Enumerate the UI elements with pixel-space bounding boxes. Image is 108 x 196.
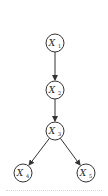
node-x3: X3 <box>46 122 64 140</box>
node-subscript: 3 <box>58 131 61 137</box>
node-subscript: 1 <box>58 43 61 49</box>
node-x4: X4 <box>14 164 32 182</box>
node-label: X <box>48 126 56 136</box>
node-label: X <box>48 85 56 95</box>
dag-diagram: X1X2X3X4X5 <box>0 0 108 196</box>
edge-x3-x4 <box>29 138 49 165</box>
edges <box>29 52 80 165</box>
edge-x3-x5 <box>60 138 80 165</box>
node-subscript: 5 <box>89 173 92 179</box>
node-label: X <box>48 38 56 48</box>
node-subscript: 2 <box>58 90 61 96</box>
node-x5: X5 <box>77 164 95 182</box>
node-label: X <box>79 168 87 178</box>
node-x1: X1 <box>46 34 64 52</box>
node-x2: X2 <box>46 81 64 99</box>
node-label: X <box>16 168 24 178</box>
node-subscript: 4 <box>26 173 29 179</box>
faint-caption-line <box>6 190 102 193</box>
